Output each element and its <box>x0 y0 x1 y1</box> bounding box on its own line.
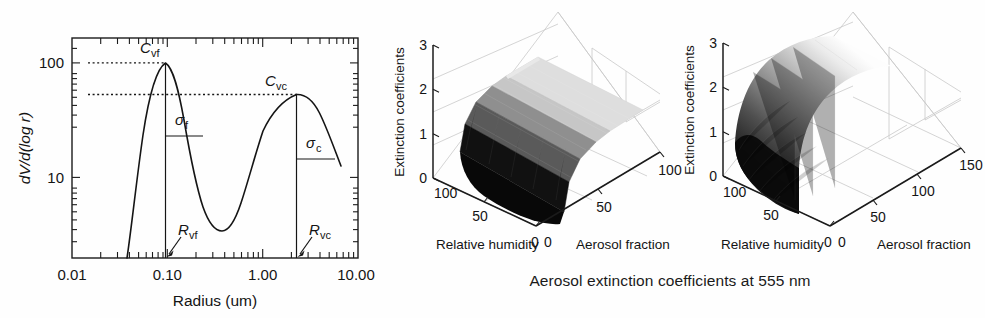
svg-text:C: C <box>265 72 276 89</box>
figure-caption: Aerosol extinction coefficients at 555 n… <box>430 272 910 290</box>
z-tick-label-1: 1 <box>709 124 717 140</box>
annotation-sigma-f: σ f <box>175 111 189 131</box>
x-axis-title: Radius (um) <box>173 292 257 309</box>
svg-text:vf: vf <box>151 47 161 59</box>
z-axis: 0 1 2 3 Extinction coefficients <box>392 37 439 186</box>
relative-humidity-axis-title: Relative humidity <box>436 237 539 252</box>
svg-text:vf: vf <box>189 229 199 241</box>
svg-text:σ: σ <box>306 134 316 151</box>
svg-text:C: C <box>140 39 151 56</box>
z-tick-label-3: 3 <box>709 35 717 51</box>
x-tick-label-1: 0.10 <box>153 266 182 283</box>
aerosol-fraction-axis-title: Aerosol fraction <box>576 237 670 252</box>
rh-tick-label-50: 50 <box>763 207 779 223</box>
rh-tick-label-100: 100 <box>434 185 458 201</box>
af-tick-label-0: 0 <box>544 234 552 250</box>
aerosol-fraction-axis: 0 50 100 150 Aerosol fraction <box>830 148 983 252</box>
z-tick-label-3: 3 <box>419 37 427 53</box>
rvc-arrow-head <box>298 251 305 258</box>
surface-mesh-smooth <box>735 36 891 214</box>
rvf-arrow-shaft <box>169 237 181 254</box>
y-axis-title: dV/d(log r) <box>16 112 33 184</box>
af-tick-label-150: 150 <box>959 157 983 173</box>
x-tick-label-2: 1.00 <box>248 266 277 283</box>
annotation-rvf: R vf <box>178 221 199 241</box>
aerosol-fraction-axis-title: Aerosol fraction <box>877 237 971 252</box>
af-tick-label-50: 50 <box>596 199 612 215</box>
rh-tick-label-100: 100 <box>723 184 747 200</box>
z-tick-label-2: 2 <box>709 79 717 95</box>
svg-text:R: R <box>178 221 189 238</box>
annotation-cvc: C vc <box>265 72 288 92</box>
x-tick-label-0: 0.01 <box>57 266 86 283</box>
af-tick-label-50: 50 <box>870 209 886 225</box>
y-tick-label-100: 100 <box>39 54 64 71</box>
rvc-arrow-shaft <box>300 237 312 254</box>
chart-surface-banded: 0 1 2 3 Extinction coefficients 100 50 0… <box>388 0 688 300</box>
annotation-cvf: C vf <box>140 39 161 59</box>
z-tick-label-0: 0 <box>419 170 427 186</box>
x-tick-label-3: 10.00 <box>337 266 375 283</box>
rh-tick-label-0: 0 <box>824 234 832 250</box>
rh-tick-label-50: 50 <box>472 208 488 224</box>
figure-root: 10 100 0.01 0.10 1.00 10.00 Radius (um) … <box>0 0 985 318</box>
svg-text:vc: vc <box>276 80 288 92</box>
surface-mesh-banded <box>460 57 643 224</box>
z-tick-label-2: 2 <box>419 81 427 97</box>
z-axis-title: Extinction coefficients <box>682 45 697 175</box>
chart-surface-smooth: 0 1 2 3 Extinction coefficients 100 50 0… <box>665 0 985 300</box>
relative-humidity-axis-title: Relative humidity <box>721 237 824 252</box>
z-tick-label-1: 1 <box>419 126 427 142</box>
af-tick-label-100: 100 <box>911 183 935 199</box>
svg-text:vc: vc <box>320 229 332 241</box>
z-axis: 0 1 2 3 Extinction coefficients <box>682 35 729 184</box>
svg-text:σ: σ <box>175 111 185 128</box>
annotation-sigma-c: σ c <box>306 134 322 154</box>
z-tick-label-0: 0 <box>709 168 717 184</box>
annotation-rvc: R vc <box>309 221 332 241</box>
svg-text:R: R <box>309 221 320 238</box>
chart-size-distribution: 10 100 0.01 0.10 1.00 10.00 Radius (um) … <box>0 0 390 318</box>
z-axis-title: Extinction coefficients <box>392 47 407 177</box>
y-tick-label-10: 10 <box>47 169 64 186</box>
svg-text:c: c <box>316 142 322 154</box>
svg-text:f: f <box>185 119 189 131</box>
af-tick-label-0: 0 <box>838 234 846 250</box>
